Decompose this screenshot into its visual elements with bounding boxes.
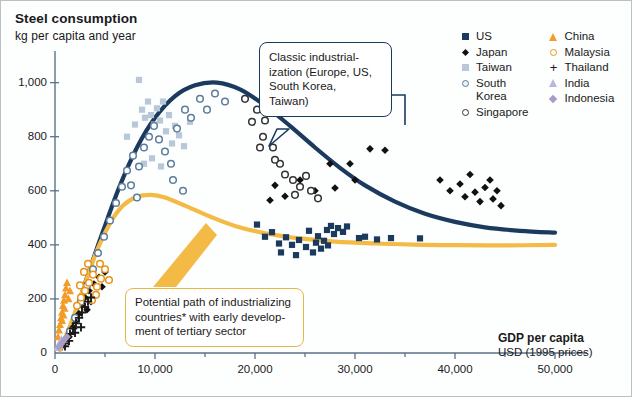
data-point [272,156,279,163]
y-tick-label: 0 [0,347,47,358]
legend-item-india[interactable]: India [546,77,614,91]
data-point [486,176,494,184]
legend-item-thailand[interactable]: +Thailand [546,61,614,75]
open-circle-icon [458,77,472,91]
data-point [315,195,322,202]
filled-diamond-icon [546,92,560,106]
data-point [130,152,137,159]
data-point [328,223,334,229]
data-point [242,96,249,103]
data-point [340,229,346,235]
callout-classic-industrialization: Classic industrial- ization (Europe, US,… [259,42,392,117]
x-tick-label: 50,000 [520,364,590,375]
data-point [151,123,158,130]
data-point [306,228,312,234]
y-tick-label: 600 [0,185,47,196]
legend-item-label: India [564,77,589,91]
data-point [78,294,85,301]
y-tick-label: 400 [0,239,47,250]
data-point [181,143,187,149]
legend-column-2: ChinaMalaysia+ThailandIndiaIndonesia [546,30,614,119]
data-point [466,171,474,179]
data-point [222,98,229,105]
legend-item-singapore[interactable]: Singapore [458,106,528,120]
data-point [461,193,469,201]
data-point [476,198,484,206]
data-point [303,244,309,250]
legend-marker-glyph [462,80,469,87]
legend-item-label: China [564,30,594,44]
legend-marker-glyph [462,109,469,116]
data-point [331,184,339,192]
data-point [269,229,275,235]
data-point [132,121,138,127]
filled-diamond-icon [458,46,472,60]
data-point [95,250,102,257]
chart-figure: Steel consumption kg per capita and year… [0,0,632,397]
data-point [86,279,93,286]
callout-classic-connector [392,95,405,125]
data-point [107,217,114,224]
y-tick-label: 800 [0,131,47,142]
data-point [297,183,304,190]
data-point [162,148,169,155]
data-point [142,115,148,121]
data-point [188,114,195,121]
data-point [493,187,501,195]
data-point [77,323,85,331]
data-point [362,234,368,240]
legend-item-china[interactable]: China [546,30,614,44]
data-point [146,133,153,140]
legend-item-south-korea[interactable]: South Korea [458,77,528,104]
x-tick-label: 0 [20,364,90,375]
legend-item-label: South Korea [476,77,507,104]
data-point [262,234,268,240]
data-point [176,132,182,138]
legend-item-label: Indonesia [564,92,614,106]
data-point [85,260,92,267]
legend-item-us[interactable]: US [458,30,528,44]
x-axis-title: GDP per capita USD (1995 prices) [498,331,593,359]
open-circle-icon [458,106,472,120]
x-tick-label: 10,000 [120,364,190,375]
legend-column-1: USJapanTaiwanSouth KoreaSingapore [458,30,528,119]
data-point [497,202,505,210]
data-point [169,140,175,146]
data-point [101,233,108,240]
data-point [346,160,354,168]
data-point [303,173,310,180]
data-point [282,171,289,178]
data-point [170,177,177,184]
data-point [446,187,454,195]
y-tick-label: 200 [0,293,47,304]
data-point [381,146,389,154]
data-point [471,188,479,196]
data-point [254,221,260,227]
filled-square-icon [458,30,472,44]
data-point [331,231,337,237]
x-axis-title-line2: USD (1995 prices) [498,345,593,359]
data-point [289,242,295,248]
data-point [113,200,120,207]
data-point [366,145,374,153]
data-point [134,194,141,201]
data-point [168,160,175,167]
data-point [77,282,84,289]
data-point [281,192,289,200]
legend-item-japan[interactable]: Japan [458,46,528,60]
data-point [174,125,181,132]
data-point [489,195,497,203]
legend-item-label: Japan [476,46,507,60]
legend-marker-glyph [549,79,557,87]
data-point [102,266,109,273]
legend-item-label: Thailand [564,61,608,75]
plus-icon: + [546,61,560,75]
data-point [128,182,135,189]
legend-item-indonesia[interactable]: Indonesia [546,92,614,106]
data-point [456,180,464,188]
data-point [308,187,315,194]
data-point [197,96,204,103]
legend-item-taiwan[interactable]: Taiwan [458,61,528,75]
x-tick-label: 40,000 [420,364,490,375]
legend-item-malaysia[interactable]: Malaysia [546,46,614,60]
